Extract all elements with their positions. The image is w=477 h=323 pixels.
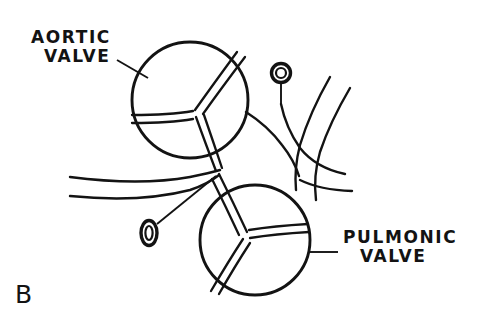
right-vessel-inner	[315, 88, 350, 200]
aortic-valve-commissures	[132, 52, 245, 171]
pulmonic-valve-annulus	[200, 185, 310, 295]
coronary-ostium-upper-lumen	[276, 68, 286, 78]
pulmonic-valve-label-line2: VALVE	[343, 247, 457, 266]
valve-anatomy-figure: AORTIC VALVE PULMONIC VALVE B	[0, 0, 477, 323]
coronary-ostium-lower-lumen	[145, 226, 152, 240]
coronary-ostium-lower-group	[141, 176, 216, 246]
pulmonic-commissure-lower-left-a	[211, 239, 243, 291]
panel-letter: B	[15, 281, 32, 309]
aortic-commissure-left-a	[132, 111, 193, 115]
aortic-valve-label-line1: AORTIC	[31, 27, 111, 47]
pulmonic-valve-group	[200, 174, 310, 295]
right-vessel-tail	[300, 180, 352, 191]
aortic-valve-label-line2: VALVE	[31, 47, 111, 66]
pulmonic-valve-label: PULMONIC VALVE	[343, 228, 457, 266]
pulmonic-commissure-right-a	[249, 224, 308, 230]
aortic-commissure-upper-right-b	[203, 57, 245, 114]
aortic-commissure-left-b	[132, 119, 193, 123]
right-vessel-group	[246, 77, 352, 200]
coronary-ostium-lower-stem	[157, 176, 216, 224]
right-vessel-outer	[296, 77, 331, 190]
left-vessel-group	[70, 170, 220, 198]
pulmonic-commissure-right-b	[250, 232, 309, 238]
left-vessel-upper	[70, 170, 220, 182]
coronary-ostium-upper-group	[272, 64, 291, 105]
aortic-commissure-upper-right-a	[195, 52, 237, 110]
aortic-valve-label: AORTIC VALVE	[31, 28, 111, 66]
aortic-valve-group	[132, 42, 248, 171]
aorta-right-wall	[246, 112, 299, 176]
pulmonic-valve-label-line1: PULMONIC	[343, 227, 457, 247]
aortic-label-leader	[117, 60, 148, 78]
